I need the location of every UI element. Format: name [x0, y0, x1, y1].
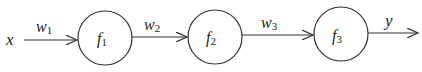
edge-label-w3: w3 [261, 14, 278, 32]
edge-label-w1: w1 [36, 18, 52, 36]
node-label-f3: f3 [332, 27, 342, 45]
node-label-f2: f2 [206, 29, 216, 47]
input-label: x [5, 30, 14, 49]
edge-label-w2: w2 [144, 16, 160, 34]
chain-diagram: x w1 f1 w2 f2 w3 f3 y [0, 0, 422, 72]
node-label-f1: f1 [97, 30, 107, 48]
output-label: y [383, 11, 393, 30]
